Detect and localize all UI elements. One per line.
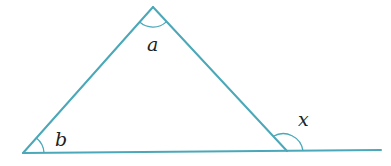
edge-left — [23, 7, 153, 153]
angle-arc-b — [36, 138, 44, 153]
angle-label-a: a — [147, 33, 158, 55]
base-line-extended — [23, 150, 381, 153]
edge-right — [153, 7, 287, 151]
triangle-diagram: a b x — [0, 0, 391, 166]
angle-label-b: b — [55, 128, 67, 150]
angle-arc-a — [140, 22, 167, 27]
angle-label-x: x — [298, 108, 309, 130]
